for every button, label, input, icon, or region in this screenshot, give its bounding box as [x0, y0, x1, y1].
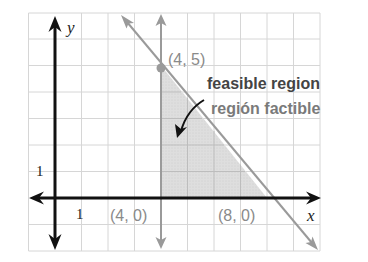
point-label-8-0: (8, 0) [218, 207, 255, 224]
y-axis-label: y [65, 18, 75, 37]
point-label-4-0: (4, 0) [110, 207, 147, 224]
annotation-feasible-region: feasible region [207, 75, 320, 92]
vertex-point-4-5 [157, 64, 166, 73]
x-tick-label: 1 [76, 206, 84, 222]
coordinate-plane: y x 1 1 (4, 5) (4, 0) (8, 0) feasible re… [0, 0, 368, 262]
annotation-region-factible: región factible [211, 100, 320, 117]
x-axis-label: x [306, 206, 315, 225]
y-axis [49, 16, 62, 250]
point-label-4-5: (4, 5) [168, 51, 205, 68]
y-tick-label: 1 [36, 163, 44, 179]
